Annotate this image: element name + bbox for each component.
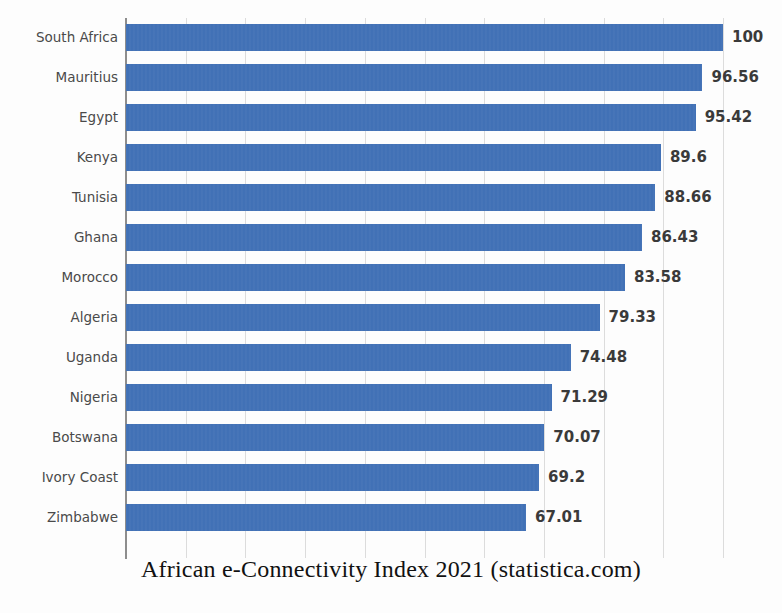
bar-texture: [126, 384, 552, 411]
bar: [126, 384, 552, 411]
bar: [126, 144, 661, 171]
category-label: Botswana: [2, 429, 118, 445]
category-label: Algeria: [2, 309, 118, 325]
bar-row: 89.6: [126, 138, 723, 178]
category-label: Mauritius: [2, 69, 118, 85]
bar-texture: [126, 64, 702, 91]
bar-texture: [126, 344, 571, 371]
bar: [126, 424, 544, 451]
bar: [126, 264, 625, 291]
bar-row: 100: [126, 18, 723, 58]
bar-row: 71.29: [126, 378, 723, 418]
bar-value-label: 96.56: [711, 68, 758, 86]
bar-value-label: 70.07: [553, 428, 600, 446]
category-label: Ghana: [2, 229, 118, 245]
bar-texture: [126, 104, 696, 131]
bar-row: 74.48: [126, 338, 723, 378]
chart-figure: South AfricaMauritiusEgyptKenyaTunisiaGh…: [0, 0, 782, 613]
bar-row: 70.07: [126, 418, 723, 458]
bar: [126, 344, 571, 371]
gridline: [723, 18, 724, 558]
bar-texture: [126, 224, 642, 251]
bar-texture: [126, 504, 526, 531]
bar-texture: [126, 24, 723, 51]
bar: [126, 504, 526, 531]
plot-area: 10096.5695.4289.688.6686.4383.5879.3374.…: [126, 18, 723, 558]
bar-value-label: 79.33: [609, 308, 656, 326]
category-axis-labels: South AfricaMauritiusEgyptKenyaTunisiaGh…: [0, 18, 118, 558]
bar-row: 69.2: [126, 458, 723, 498]
category-label: Uganda: [2, 349, 118, 365]
bar-row: 79.33: [126, 298, 723, 338]
category-label: Egypt: [2, 109, 118, 125]
bar-row: 86.43: [126, 218, 723, 258]
bar-value-label: 95.42: [705, 108, 752, 126]
bar-texture: [126, 264, 625, 291]
bar-row: 88.66: [126, 178, 723, 218]
bar-value-label: 88.66: [664, 188, 711, 206]
bar-value-label: 74.48: [580, 348, 627, 366]
bar: [126, 104, 696, 131]
chart-caption: African e-Connectivity Index 2021 (stati…: [0, 556, 782, 583]
category-label: Zimbabwe: [2, 509, 118, 525]
category-label: Morocco: [2, 269, 118, 285]
bar-value-label: 83.58: [634, 268, 681, 286]
bar: [126, 24, 723, 51]
category-label: Kenya: [2, 149, 118, 165]
bar: [126, 304, 600, 331]
bar-texture: [126, 184, 655, 211]
bar-value-label: 71.29: [561, 388, 608, 406]
bar: [126, 224, 642, 251]
category-label: Nigeria: [2, 389, 118, 405]
bar-value-label: 86.43: [651, 228, 698, 246]
bar-value-label: 100: [732, 28, 763, 46]
bar-value-label: 67.01: [535, 508, 582, 526]
category-label: Ivory Coast: [2, 469, 118, 485]
bar-row: 96.56: [126, 58, 723, 98]
bar-value-label: 89.6: [670, 148, 707, 166]
bar: [126, 64, 702, 91]
bar-texture: [126, 424, 544, 451]
bar: [126, 184, 655, 211]
bar-texture: [126, 304, 600, 331]
bar-row: 83.58: [126, 258, 723, 298]
category-label: South Africa: [2, 29, 118, 45]
bar-texture: [126, 144, 661, 171]
bar: [126, 464, 539, 491]
bar-texture: [126, 464, 539, 491]
bar-row: 67.01: [126, 498, 723, 538]
bar-row: 95.42: [126, 98, 723, 138]
bar-value-label: 69.2: [548, 468, 585, 486]
category-label: Tunisia: [2, 189, 118, 205]
